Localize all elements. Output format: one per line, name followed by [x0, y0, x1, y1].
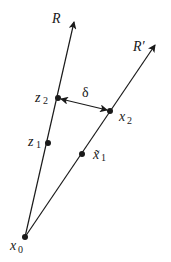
svg-text:x: x	[9, 238, 17, 253]
svg-text:2: 2	[43, 95, 48, 106]
point-z2	[55, 95, 61, 101]
label-z1: z 1	[27, 134, 41, 150]
label-z2: z 2	[34, 90, 48, 106]
point-z1	[45, 140, 51, 146]
svg-text:z: z	[34, 90, 41, 105]
label-x1-tilde: x̃ 1	[92, 147, 106, 163]
ray-r	[25, 22, 74, 237]
label-x2: x 2	[118, 109, 132, 126]
ray-r-prime	[25, 45, 155, 237]
label-r: R	[51, 11, 61, 26]
svg-text:2: 2	[127, 115, 132, 126]
svg-text:1: 1	[101, 152, 106, 163]
svg-text:x̃: x̃	[92, 147, 100, 162]
svg-text:0: 0	[18, 244, 23, 255]
point-x2	[107, 108, 113, 114]
point-x1-tilde	[79, 151, 85, 157]
ray-diagram: R R′ δ z 2 x 2 z 1 x̃ 1 x 0	[0, 0, 171, 262]
point-x0	[22, 234, 28, 240]
svg-text:1: 1	[36, 139, 41, 150]
delta-arrow	[61, 99, 107, 110]
label-x0: x 0	[9, 238, 23, 255]
label-delta: δ	[82, 85, 89, 100]
label-r-prime: R′	[132, 39, 146, 54]
svg-text:z: z	[27, 134, 34, 149]
svg-text:x: x	[118, 109, 126, 124]
